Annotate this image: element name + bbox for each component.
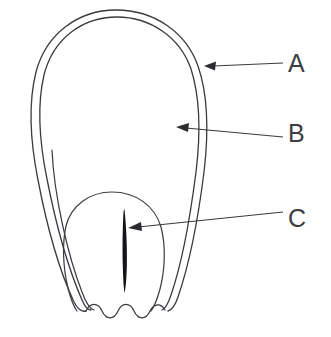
figure-container: A B C [0,0,331,337]
leader-b [176,123,283,137]
dark-blade-shape [123,209,127,293]
leader-a-line [213,63,283,66]
leader-c-line [138,212,283,227]
leader-a [204,62,283,71]
outer-wall-inner-contour [40,17,199,310]
diagram-canvas: A B C [0,0,331,337]
leader-a-arrowhead [204,62,216,71]
label-a: A [288,49,305,77]
leader-c-arrowhead [128,222,142,231]
outer-wall-outer-contour [31,10,207,311]
label-b: B [288,119,305,147]
leader-b-line [186,128,283,137]
wavy-base-edge [86,304,165,318]
leader-c [128,212,283,231]
label-c: C [288,204,306,232]
leader-b-arrowhead [176,123,189,132]
